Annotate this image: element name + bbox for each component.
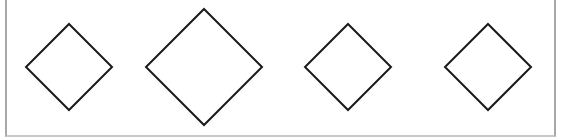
diamond-shape-3	[305, 24, 391, 110]
diagram-canvas	[0, 0, 565, 140]
diamond-shape-2-large	[146, 9, 262, 125]
diamond-shape-1	[26, 24, 112, 110]
diamond-shape-4	[445, 24, 531, 110]
